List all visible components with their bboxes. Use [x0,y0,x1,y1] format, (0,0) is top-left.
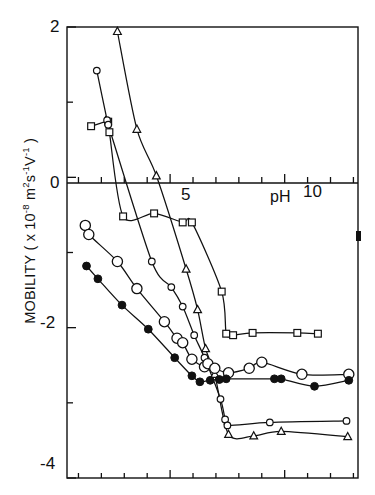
marker-large-open-circles [257,357,267,367]
marker-filled-circles [277,375,285,383]
marker-squares [151,210,158,217]
marker-triangles [202,345,210,352]
marker-large-open-circles [159,317,169,327]
axis-ticks [67,27,353,478]
marker-small-open-circles [217,396,224,403]
marker-triangles [277,427,285,434]
marker-filled-circles [206,376,214,384]
marker-large-open-circles [187,354,197,364]
marker-small-open-circles [149,258,156,265]
marker-small-open-circles [94,67,101,74]
marker-squares [88,123,95,130]
marker-squares [189,219,196,226]
y-tick-label-minus-2: -2 [40,313,55,333]
x-axis-label: pH [270,188,290,206]
curve-triangles [117,32,347,439]
marker-large-open-circles [112,256,122,266]
marker-squares [249,330,256,337]
marker-filled-circles [196,378,204,386]
marker-filled-circles [118,301,126,309]
marker-filled-circles [188,372,196,380]
marker-large-open-circles [178,338,188,348]
x-tick-label-10: 10 [303,182,322,202]
marker-large-open-circles [132,284,142,294]
data-markers [80,27,354,439]
marker-squares [106,129,113,136]
marker-small-open-circles [168,284,175,291]
marker-squares [230,332,237,339]
marker-large-open-circles [210,363,220,373]
marker-filled-circles [171,354,179,362]
curve-large-open-circles [85,225,349,375]
marker-squares [223,330,230,337]
marker-squares [294,330,301,337]
figure-container: MOBILITY ( x 10-8 m2s-1V-1 ) 2 0 -2 -4 5… [0,0,375,495]
marker-triangles [194,305,202,312]
y-tick-label-minus-4: -4 [40,454,55,474]
marker-filled-circles [311,382,319,390]
marker-filled-circles [144,325,152,333]
y-tick-label-0: 0 [50,173,59,193]
marker-squares [120,213,127,220]
marker-squares [218,288,225,295]
marker-filled-circles [94,275,102,283]
marker-small-open-circles [191,332,198,339]
marker-small-open-circles [267,419,274,426]
y-tick-label-2: 2 [50,17,59,37]
chart-canvas [0,0,375,495]
marker-large-open-circles [244,363,254,373]
marker-triangles [133,125,141,132]
marker-small-open-circles [224,422,231,429]
marker-triangles [225,430,233,437]
marker-filled-circles [83,262,91,270]
marker-small-open-circles [105,121,112,128]
marker-filled-circles [222,375,230,383]
plot-frame [67,27,358,478]
marker-triangles [182,265,190,272]
marker-triangles [114,27,122,34]
marker-squares [179,219,186,226]
marker-small-open-circles [179,303,186,310]
marker-triangles [153,172,161,179]
marker-large-open-circles [297,369,307,379]
x-tick-label-5: 5 [181,185,190,205]
y-axis-label: MOBILITY ( x 10-8 m2s-1V-1 ) [20,106,38,356]
marker-squares [315,330,322,337]
edge-mark [356,231,361,241]
marker-small-open-circles [343,418,350,425]
marker-filled-circles [345,376,353,384]
curve-small-open-circles [97,71,347,426]
marker-large-open-circles [84,229,94,239]
